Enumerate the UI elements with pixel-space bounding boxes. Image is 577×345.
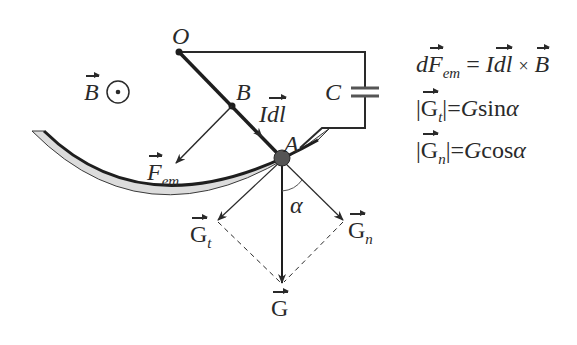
label-F-em: Fem bbox=[147, 160, 179, 189]
equation-gt: |Gt|=Gsinα bbox=[416, 96, 519, 125]
gt-vector bbox=[218, 160, 282, 220]
field-out-of-page-icon bbox=[107, 81, 129, 103]
label-G: G bbox=[271, 296, 288, 320]
label-alpha: α bbox=[290, 193, 303, 217]
capacitor bbox=[351, 88, 379, 96]
label-A: A bbox=[284, 132, 299, 156]
angle-alpha-arc bbox=[282, 180, 302, 191]
label-Idl: Idl bbox=[259, 102, 286, 126]
label-C: C bbox=[325, 80, 341, 104]
label-field-B: B bbox=[84, 80, 99, 104]
equation-force: dFem = Idl × B bbox=[416, 52, 549, 81]
force-em-vector bbox=[176, 106, 232, 163]
pivot-O bbox=[176, 49, 183, 56]
label-Gn: Gn bbox=[348, 218, 373, 247]
parallelogram-dashes bbox=[218, 222, 343, 282]
label-B-point: B bbox=[236, 80, 251, 104]
equation-gn: |Gn|=Gcosα bbox=[416, 138, 526, 167]
label-O: O bbox=[172, 24, 189, 48]
label-Gt: Gt bbox=[190, 222, 212, 251]
